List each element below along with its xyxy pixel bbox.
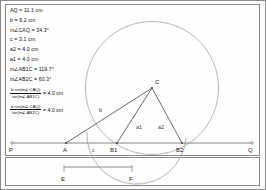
segment-a1-CB1[interactable] (117, 88, 152, 143)
point-label-B2: B2 (176, 147, 184, 153)
geometry-svg: P A B1 B2 Q C b c a1 a2 E F (0, 0, 266, 190)
side-label-a2: a2 (158, 124, 164, 130)
point-C-marker[interactable] (151, 87, 153, 89)
screenshot-root: AQ = 11.1 cm b = 6.2 cm m∠CAQ = 34.3° c … (0, 0, 266, 190)
segment-label-F: F (129, 176, 133, 182)
point-label-B1: B1 (110, 147, 118, 153)
segment-label-E: E (61, 176, 65, 182)
point-B2-marker[interactable] (181, 142, 183, 144)
segment-a2-CB2[interactable] (152, 88, 182, 143)
point-A-marker[interactable] (65, 142, 67, 144)
side-label-c: c (92, 147, 95, 153)
point-B1-marker[interactable] (116, 142, 118, 144)
side-label-a1: a1 (136, 124, 142, 130)
point-label-C: C (155, 79, 160, 85)
side-label-b: b (99, 107, 102, 113)
swing-arc (87, 131, 186, 184)
point-label-P: P (9, 147, 13, 153)
point-label-Q: Q (248, 147, 253, 153)
segment-b-AC[interactable] (66, 88, 152, 143)
point-label-A: A (63, 147, 67, 153)
